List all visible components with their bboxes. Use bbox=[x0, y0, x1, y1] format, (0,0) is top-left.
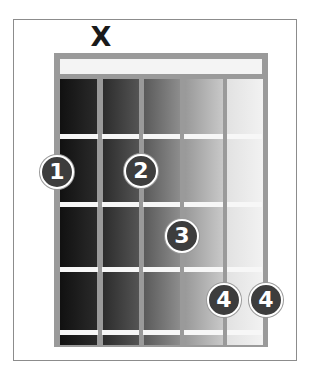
fret-3 bbox=[60, 267, 262, 272]
string-2 bbox=[98, 79, 102, 347]
string-4 bbox=[180, 79, 184, 347]
nut bbox=[60, 59, 262, 74]
string-gap-1 bbox=[60, 79, 97, 345]
string-gap-2 bbox=[103, 79, 140, 345]
fret-4 bbox=[60, 330, 262, 335]
string-3 bbox=[139, 79, 143, 347]
finger-marker: 3 bbox=[165, 219, 199, 253]
finger-marker: 2 bbox=[124, 154, 158, 188]
string-gap-3 bbox=[144, 79, 181, 345]
fret-1 bbox=[60, 134, 262, 139]
muted-string-marker: X bbox=[89, 24, 113, 50]
fret-2 bbox=[60, 202, 262, 207]
finger-marker: 4 bbox=[207, 283, 241, 317]
string-1 bbox=[55, 79, 59, 347]
finger-marker: 4 bbox=[249, 283, 283, 317]
finger-marker: 1 bbox=[40, 155, 74, 189]
